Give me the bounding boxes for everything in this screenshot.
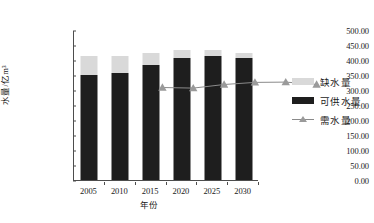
y-tick-label: 500.00 bbox=[346, 27, 369, 36]
bar-group bbox=[81, 56, 98, 181]
x-tick-mark bbox=[227, 182, 228, 185]
bar-segment-shortage bbox=[173, 50, 190, 57]
y-axis: 水量/亿m³ bbox=[0, 31, 72, 181]
x-tick-label: 2030 bbox=[234, 187, 251, 196]
bar-segment-supply bbox=[81, 75, 98, 180]
y-tick-label: 150.00 bbox=[346, 132, 369, 141]
legend-label-shortage: 缺水量 bbox=[320, 75, 351, 89]
x-tick-mark bbox=[196, 182, 197, 185]
y-tick-label: 50.00 bbox=[350, 162, 369, 171]
x-tick-label: 2005 bbox=[80, 187, 97, 196]
y-tick-mark bbox=[73, 91, 76, 92]
x-tick-mark bbox=[104, 182, 105, 185]
y-tick-mark bbox=[73, 121, 76, 122]
legend-swatch-supply-icon bbox=[292, 97, 314, 104]
x-axis-label: 年份 bbox=[140, 198, 158, 210]
x-tick-mark bbox=[258, 182, 259, 185]
legend-item-supply: 可供水量 bbox=[292, 91, 361, 110]
legend-item-shortage: 缺水量 bbox=[292, 72, 361, 91]
chart-legend: 缺水量 可供水量 需水量 bbox=[292, 72, 361, 129]
y-tick-mark bbox=[73, 151, 76, 152]
bar-segment-shortage bbox=[112, 56, 129, 73]
bar-group bbox=[112, 56, 129, 180]
y-tick-mark bbox=[73, 106, 76, 107]
x-tick-mark bbox=[135, 182, 136, 185]
legend-swatch-shortage-icon bbox=[292, 78, 314, 85]
y-axis-label: 水量/亿m³ bbox=[0, 25, 10, 145]
y-tick-label: 450.00 bbox=[346, 42, 369, 51]
x-tick-label: 2010 bbox=[111, 187, 128, 196]
demand-triangle-marker bbox=[158, 83, 166, 90]
legend-item-demand: 需水量 bbox=[292, 110, 361, 129]
x-tick-label: 2025 bbox=[203, 187, 220, 196]
y-tick-mark bbox=[73, 166, 76, 167]
y-tick-mark bbox=[73, 61, 76, 62]
legend-label-demand: 需水量 bbox=[320, 113, 351, 127]
legend-triangle-marker-icon bbox=[299, 116, 307, 122]
y-tick-mark bbox=[73, 46, 76, 47]
bar-segment-shortage bbox=[81, 56, 98, 76]
y-tick-label: 0.00 bbox=[355, 177, 369, 186]
legend-label-supply: 可供水量 bbox=[320, 94, 361, 108]
y-tick-mark bbox=[73, 31, 76, 32]
plot-area bbox=[73, 31, 258, 181]
chart-root: 水量/亿m³ 500.00450.00400.00350.00300.00250… bbox=[0, 0, 374, 223]
y-tick-label: 100.00 bbox=[346, 147, 369, 156]
bar-segment-supply bbox=[112, 73, 129, 180]
legend-swatch-demand-icon bbox=[292, 115, 314, 124]
y-tick-mark bbox=[73, 136, 76, 137]
x-tick-label: 2020 bbox=[173, 187, 190, 196]
y-tick-label: 400.00 bbox=[346, 57, 369, 66]
x-tick-labels: 200520102015202020252030 bbox=[73, 182, 259, 202]
y-tick-mark bbox=[73, 76, 76, 77]
x-tick-mark bbox=[166, 182, 167, 185]
demand-triangle-marker bbox=[282, 78, 290, 85]
x-tick-label: 2015 bbox=[142, 187, 159, 196]
